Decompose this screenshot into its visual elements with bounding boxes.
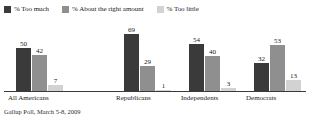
bar-rect — [124, 34, 139, 91]
bar-rect — [205, 56, 220, 91]
bar-independents-too-much[interactable]: 54 — [189, 26, 204, 91]
legend-item-too-much: % Too much — [4, 5, 49, 13]
bar-all-americans-about-the-right-amount[interactable]: 42 — [32, 26, 47, 91]
bar-value-label: 50 — [20, 40, 27, 48]
legend-swatch-too-much — [4, 6, 11, 13]
category-label-all-americans: All Americans — [8, 94, 49, 103]
bar-value-label: 53 — [274, 37, 281, 45]
bar-rect — [254, 63, 269, 91]
bar-value-label: 69 — [128, 26, 135, 34]
bar-rect — [189, 44, 204, 91]
legend-label-too-much: % Too much — [14, 5, 49, 13]
bar-rect — [140, 66, 155, 91]
bar-rect — [32, 55, 47, 91]
bars-all-americans: 50427 — [16, 26, 64, 91]
legend-swatch-too-little — [157, 6, 164, 13]
bar-democrats-too-little[interactable]: 13 — [286, 26, 301, 91]
source-note: Gallup Poll, March 5-8, 2009 — [4, 107, 81, 116]
bar-republicans-too-much[interactable]: 69 — [124, 26, 139, 91]
bar-democrats-about-the-right-amount[interactable]: 53 — [270, 26, 285, 91]
bar-republicans-too-little[interactable]: 1 — [156, 26, 171, 91]
bar-value-label: 42 — [36, 47, 43, 55]
bar-value-label: 1 — [162, 82, 166, 90]
bar-chart: % Too much % About the right amount % To… — [0, 0, 310, 119]
bar-independents-too-little[interactable]: 3 — [221, 26, 236, 91]
bar-value-label: 7 — [54, 77, 58, 85]
bar-value-label: 32 — [258, 55, 265, 63]
bar-independents-about-the-right-amount[interactable]: 40 — [205, 26, 220, 91]
bar-rect — [48, 85, 63, 91]
legend-swatch-about-right — [62, 6, 69, 13]
bar-value-label: 40 — [209, 48, 216, 56]
bar-rect — [286, 80, 301, 91]
bar-republicans-about-the-right-amount[interactable]: 29 — [140, 26, 155, 91]
bar-all-americans-too-much[interactable]: 50 — [16, 26, 31, 91]
legend-label-about-right: % About the right amount — [72, 5, 144, 13]
bar-democrats-too-much[interactable]: 32 — [254, 26, 269, 91]
bar-all-americans-too-little[interactable]: 7 — [48, 26, 63, 91]
legend-item-about-right: % About the right amount — [62, 5, 144, 13]
chart-legend: % Too much % About the right amount % To… — [4, 3, 306, 15]
bar-rect — [221, 88, 236, 91]
bar-rect — [270, 45, 285, 91]
bar-value-label: 13 — [290, 72, 297, 80]
bar-value-label: 54 — [193, 36, 200, 44]
bar-value-label: 29 — [144, 58, 151, 66]
bars-democrats: 325313 — [254, 26, 302, 91]
category-label-republicans: Republicans — [116, 94, 151, 103]
category-axis-labels: All AmericansRepublicansIndependentsDemo… — [4, 94, 306, 104]
bar-rect — [16, 48, 31, 91]
x-axis-baseline — [4, 91, 306, 92]
bars-independents: 54403 — [189, 26, 237, 91]
bar-value-label: 3 — [227, 80, 231, 88]
bar-rect — [156, 90, 171, 91]
legend-label-too-little: % Too little — [167, 5, 199, 13]
legend-item-too-little: % Too little — [157, 5, 199, 13]
bars-republicans: 69291 — [124, 26, 172, 91]
category-label-independents: Independents — [181, 94, 218, 103]
plot-area: 504276929154403325313 — [4, 26, 306, 92]
category-label-democrats: Democrats — [246, 94, 276, 103]
